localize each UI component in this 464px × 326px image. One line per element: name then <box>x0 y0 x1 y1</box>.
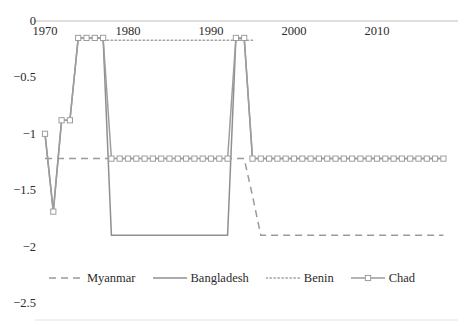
legend-item-chad[interactable]: Chad <box>351 272 415 285</box>
data-point-marker <box>325 156 330 161</box>
legend-swatch-myanmar <box>49 273 83 283</box>
data-point-marker <box>208 156 213 161</box>
data-point-marker <box>59 118 64 123</box>
legend-label: Chad <box>389 272 415 285</box>
series-line-chad <box>45 38 443 212</box>
data-point-marker <box>424 156 429 161</box>
y-axis-tick-label: 0 <box>0 15 36 28</box>
data-point-marker <box>84 35 89 40</box>
data-point-marker <box>441 156 446 161</box>
legend-swatch-benin <box>266 273 300 283</box>
data-point-marker <box>109 156 114 161</box>
data-point-marker <box>150 156 155 161</box>
data-point-marker <box>51 209 56 214</box>
data-point-marker <box>42 131 47 136</box>
data-point-marker <box>142 156 147 161</box>
data-point-marker <box>159 156 164 161</box>
legend-swatch-bangladesh <box>153 273 187 283</box>
data-point-marker <box>101 35 106 40</box>
x-axis-tick-label: 1990 <box>199 25 224 38</box>
line-chart: 0−0.5−1−1.5−2−2.5 19701980199020002010 M… <box>0 0 464 326</box>
data-point-marker <box>291 156 296 161</box>
data-point-marker <box>184 156 189 161</box>
data-point-marker <box>350 156 355 161</box>
y-axis-tick-label: −1 <box>0 128 36 141</box>
data-point-marker <box>225 156 230 161</box>
data-point-marker <box>408 156 413 161</box>
data-point-marker <box>258 156 263 161</box>
data-point-marker <box>358 156 363 161</box>
data-point-marker <box>250 156 255 161</box>
data-point-marker <box>67 118 72 123</box>
x-axis-tick-label: 1980 <box>116 25 141 38</box>
data-point-marker <box>300 156 305 161</box>
data-point-marker <box>167 156 172 161</box>
data-point-marker <box>175 156 180 161</box>
data-point-marker <box>192 156 197 161</box>
legend-swatch-chad <box>351 273 385 283</box>
data-point-marker <box>283 156 288 161</box>
data-point-marker <box>316 156 321 161</box>
chart-legend: MyanmarBangladeshBeninChad <box>0 272 464 285</box>
y-axis-tick-label: −2.5 <box>0 297 36 310</box>
data-point-marker <box>391 156 396 161</box>
data-point-marker <box>92 35 97 40</box>
legend-item-myanmar[interactable]: Myanmar <box>49 272 136 285</box>
legend-label: Benin <box>304 272 334 285</box>
legend-item-benin[interactable]: Benin <box>266 272 334 285</box>
x-axis-tick-label: 2000 <box>282 25 307 38</box>
series-line-myanmar <box>45 159 443 236</box>
data-point-marker <box>233 35 238 40</box>
data-point-marker <box>217 156 222 161</box>
data-point-marker <box>125 156 130 161</box>
data-point-marker <box>374 156 379 161</box>
legend-label: Bangladesh <box>191 272 249 285</box>
data-point-marker <box>200 156 205 161</box>
y-axis-tick-label: −2 <box>0 240 36 253</box>
legend-item-bangladesh[interactable]: Bangladesh <box>153 272 249 285</box>
x-axis-tick-label: 1970 <box>33 25 58 38</box>
series-layer <box>42 35 446 235</box>
data-point-marker <box>333 156 338 161</box>
data-point-marker <box>399 156 404 161</box>
y-axis-tick-label: −1.5 <box>0 184 36 197</box>
data-point-marker <box>416 156 421 161</box>
y-axis-tick-label: −0.5 <box>0 71 36 84</box>
data-point-marker <box>308 156 313 161</box>
data-point-marker <box>76 35 81 40</box>
data-point-marker <box>134 156 139 161</box>
legend-label: Myanmar <box>87 272 136 285</box>
data-point-marker <box>341 156 346 161</box>
data-point-marker <box>433 156 438 161</box>
data-point-marker <box>383 156 388 161</box>
x-axis-tick-label: 2010 <box>365 25 390 38</box>
data-point-marker <box>267 156 272 161</box>
data-point-marker <box>242 35 247 40</box>
data-point-marker <box>366 156 371 161</box>
data-point-marker <box>117 156 122 161</box>
data-point-marker <box>275 156 280 161</box>
